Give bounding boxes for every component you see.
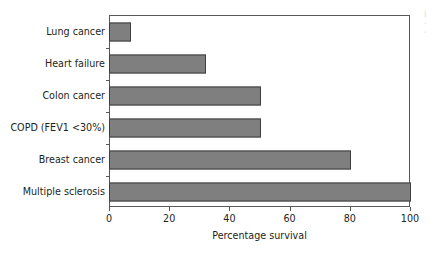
category-label: Lung cancer	[1, 26, 105, 37]
x-tick-mark	[229, 207, 230, 211]
x-tick-mark	[109, 207, 110, 211]
bar-row	[110, 112, 409, 144]
bar	[109, 119, 261, 138]
x-tick-label: 60	[283, 213, 295, 224]
x-tick-label: 0	[106, 213, 112, 224]
x-tick-mark	[169, 207, 170, 211]
x-tick-label: 40	[223, 213, 235, 224]
x-tick-label: 80	[344, 213, 356, 224]
bar	[109, 55, 206, 74]
category-label: Multiple sclerosis	[1, 186, 105, 197]
bar	[109, 151, 351, 170]
category-label: COPD (FEV1 <30%)	[1, 122, 105, 133]
category-label: Heart failure	[1, 58, 105, 69]
plot-area	[109, 15, 410, 207]
margin-text-fragment: |--	[424, 10, 438, 37]
x-tick-label: 100	[401, 213, 419, 224]
x-tick-mark	[410, 207, 411, 211]
category-axis-labels: Lung cancerHeart failureColon cancerCOPD…	[0, 15, 105, 207]
figure: Lung cancerHeart failureColon cancerCOPD…	[0, 0, 438, 254]
x-tick-mark	[290, 207, 291, 211]
x-tick-mark	[350, 207, 351, 211]
bar-row	[110, 48, 409, 80]
category-label: Breast cancer	[1, 154, 105, 165]
x-axis-title: Percentage survival	[109, 230, 410, 242]
x-tick-label: 20	[163, 213, 175, 224]
bar-row	[110, 16, 409, 48]
bar-row	[110, 176, 409, 208]
category-label: Colon cancer	[1, 90, 105, 101]
bar	[109, 183, 411, 202]
bar-row	[110, 80, 409, 112]
bar	[109, 87, 261, 106]
bar	[109, 23, 131, 42]
bar-row	[110, 144, 409, 176]
